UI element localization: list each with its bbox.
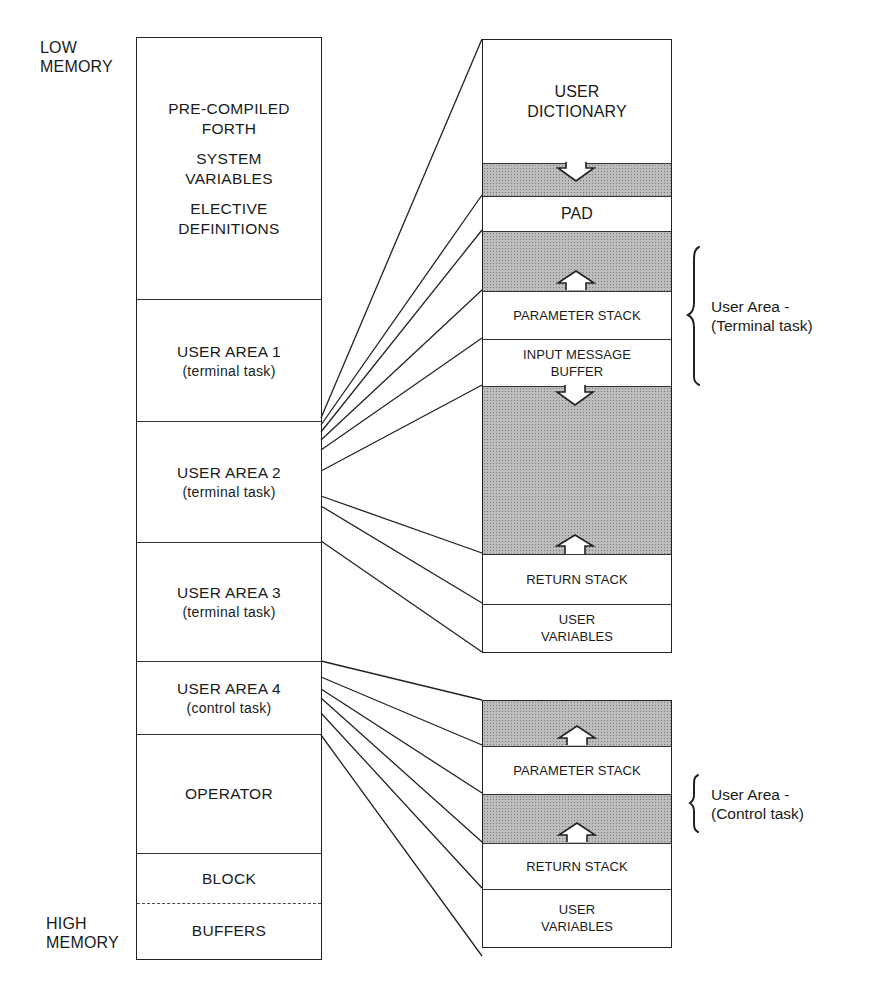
region-text: USER <box>559 611 596 628</box>
brace-control-icon <box>690 775 698 832</box>
brace-terminal-icon <box>688 247 699 385</box>
low-memory-line-2: MEMORY <box>40 57 113 76</box>
brace-icons <box>688 247 699 832</box>
terminal-user-area-detail: USER DICTIONARY PAD PARAMETER STACK INPU… <box>482 39 672 653</box>
region-text: PRE-COMPILED <box>168 99 290 119</box>
annotation-line: User Area - <box>711 785 804 804</box>
region-input-message-buffer: INPUT MESSAGE BUFFER <box>483 339 671 386</box>
annotation-line: (Terminal task) <box>711 316 813 335</box>
region-user-dictionary: USER DICTIONARY <box>483 40 671 163</box>
region-subtitle: (control task) <box>186 699 271 717</box>
low-memory-label: LOW MEMORY <box>40 38 113 76</box>
region-title: BLOCK <box>202 869 256 889</box>
region-subtitle: (terminal task) <box>182 603 275 621</box>
region-subtitle: (terminal task) <box>182 362 275 380</box>
region-text: PARAMETER STACK <box>513 762 640 779</box>
region-text: PARAMETER STACK <box>513 307 640 324</box>
region-text: BUFFER <box>551 363 604 380</box>
region-user-variables: USER VARIABLES <box>483 604 671 651</box>
region-parameter-stack: PARAMETER STACK <box>483 291 671 339</box>
region-title: USER AREA 4 <box>177 679 281 699</box>
region-text: VARIABLES <box>541 628 613 645</box>
region-text: USER <box>559 901 596 918</box>
high-memory-line-2: MEMORY <box>46 933 119 952</box>
region-text: RETURN STACK <box>526 571 627 588</box>
region-free-space-3 <box>483 386 671 554</box>
region-text: USER <box>555 82 600 102</box>
annotation-line: User Area - <box>711 297 813 316</box>
region-title: BUFFERS <box>192 921 266 941</box>
region-free-space-2 <box>483 231 671 291</box>
region-title: USER AREA 2 <box>177 463 281 483</box>
region-text: VARIABLES <box>541 918 613 935</box>
control-task-annotation: User Area - (Control task) <box>711 785 804 823</box>
region-text: PAD <box>561 204 593 224</box>
low-memory-line-1: LOW <box>40 38 113 57</box>
region-pad: PAD <box>483 196 671 231</box>
control-user-area-detail: PARAMETER STACK RETURN STACK USER VARIAB… <box>482 700 672 948</box>
region-user-area-4: USER AREA 4 (control task) <box>137 661 321 734</box>
connector-overlay <box>0 0 880 1001</box>
region-user-area-3: USER AREA 3 (terminal task) <box>137 542 321 661</box>
region-text: SYSTEM <box>196 149 262 169</box>
connector-lines <box>321 39 482 956</box>
region-return-stack-control: RETURN STACK <box>483 843 671 889</box>
high-memory-label: HIGH MEMORY <box>46 914 119 952</box>
region-block: BLOCK <box>137 853 321 903</box>
annotation-line: (Control task) <box>711 804 804 823</box>
region-free-space-1 <box>483 163 671 196</box>
memory-map: PRE-COMPILED FORTH SYSTEM VARIABLES ELEC… <box>136 37 322 960</box>
region-text: INPUT MESSAGE <box>523 346 631 363</box>
region-title: USER AREA 1 <box>177 342 281 362</box>
region-text: FORTH <box>202 119 257 139</box>
region-subtitle: (terminal task) <box>182 483 275 501</box>
region-user-area-1: USER AREA 1 (terminal task) <box>137 299 321 421</box>
region-operator: OPERATOR <box>137 734 321 853</box>
region-free-space-5 <box>483 794 671 843</box>
region-return-stack: RETURN STACK <box>483 554 671 604</box>
region-parameter-stack-control: PARAMETER STACK <box>483 746 671 794</box>
region-text: DEFINITIONS <box>178 219 279 239</box>
high-memory-line-1: HIGH <box>46 914 119 933</box>
region-text: ELECTIVE <box>190 199 267 219</box>
region-buffers: BUFFERS <box>137 903 321 958</box>
region-text: VARIABLES <box>185 169 273 189</box>
region-user-area-2: USER AREA 2 (terminal task) <box>137 421 321 542</box>
region-text: RETURN STACK <box>526 858 627 875</box>
terminal-task-annotation: User Area - (Terminal task) <box>711 297 813 335</box>
region-title: USER AREA 3 <box>177 583 281 603</box>
region-text: DICTIONARY <box>527 102 626 122</box>
region-precompiled-forth: PRE-COMPILED FORTH SYSTEM VARIABLES ELEC… <box>137 38 321 299</box>
region-title: OPERATOR <box>185 784 273 804</box>
region-user-variables-control: USER VARIABLES <box>483 889 671 946</box>
region-free-space-4 <box>483 701 671 746</box>
